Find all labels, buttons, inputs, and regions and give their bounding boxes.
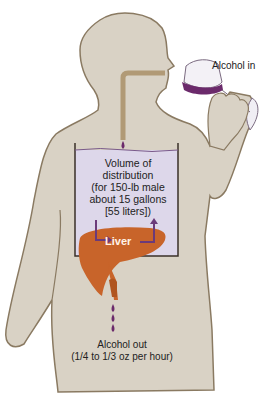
volume-line: distribution	[78, 169, 178, 181]
alcohol-metabolism-diagram: Alcohol in Volume of distribution (for 1…	[0, 0, 278, 397]
drip-icons	[112, 304, 115, 332]
volume-of-distribution-label: Volume of distribution (for 150-lb male …	[78, 157, 178, 217]
alcohol-out-rate: (1/4 to 1/3 oz per hour)	[52, 351, 192, 363]
liver-label: Liver	[105, 235, 131, 248]
volume-line: (for 150-lb male	[78, 181, 178, 193]
alcohol-out-label: Alcohol out (1/4 to 1/3 oz per hour)	[52, 339, 192, 362]
volume-line: Volume of	[78, 157, 178, 169]
alcohol-in-label: Alcohol in	[212, 60, 255, 72]
volume-line: about 15 gallons	[78, 193, 178, 205]
alcohol-out-title: Alcohol out	[52, 339, 192, 351]
volume-line: [55 liters])	[78, 205, 178, 217]
